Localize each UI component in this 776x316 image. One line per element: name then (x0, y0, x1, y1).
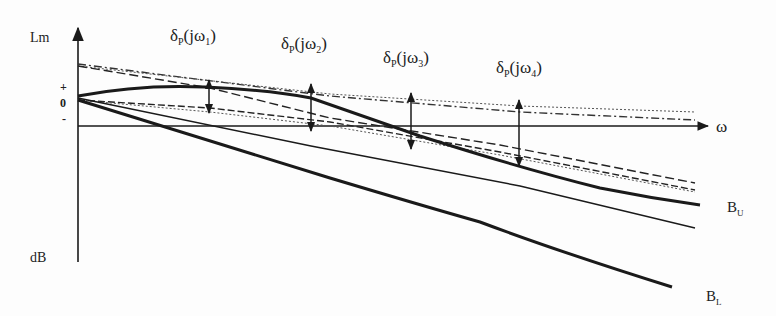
x-axis-label-omega: ω (716, 117, 727, 137)
bode-bounds-diagram: Lm dB ω + 0 - δP(jω1) δP(jω2) δP(jω3) δP… (0, 0, 776, 316)
tick-minus: - (62, 112, 66, 127)
y-axis-label-db: dB (30, 250, 46, 266)
lower-bound-curve (78, 100, 672, 287)
y-axis-label-lm: Lm (30, 30, 49, 46)
lower-dotted-line (78, 100, 695, 192)
nominal-line (78, 98, 695, 228)
delta-label-3: δP(jω3) (383, 48, 429, 69)
upper-bound-label: BU (727, 199, 744, 218)
upper-dashdot-line (78, 64, 695, 120)
delta-label-2: δP(jω2) (281, 34, 327, 55)
delta-label-1: δP(jω1) (170, 26, 216, 47)
delta-label-4: δP(jω4) (496, 58, 542, 79)
lower-bound-label: BL (706, 288, 722, 307)
tick-zero: 0 (60, 96, 66, 111)
upper-bound-curve (78, 86, 700, 205)
lower-dashed-line (78, 100, 695, 190)
tick-plus: + (60, 80, 67, 95)
